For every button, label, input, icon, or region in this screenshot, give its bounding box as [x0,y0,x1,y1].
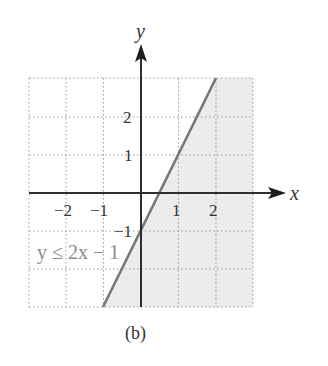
x-tick-label: −1 [90,201,108,220]
x-tick-label: 2 [209,201,218,220]
y-tick-label: −1 [114,222,132,241]
y-axis-label: y [134,20,145,43]
x-tick-label: 1 [172,201,181,220]
graph-canvas: x y −2 −1 1 2 2 1 −1 y ≤ 2x − 1 (b) [0,0,328,366]
y-tick-label: 1 [124,146,133,165]
inequality-label: y ≤ 2x − 1 [37,241,119,264]
y-tick-label: 2 [123,108,132,127]
figure-caption: (b) [125,323,146,344]
x-tick-label: −2 [54,201,72,220]
x-axis-label: x [289,182,299,204]
